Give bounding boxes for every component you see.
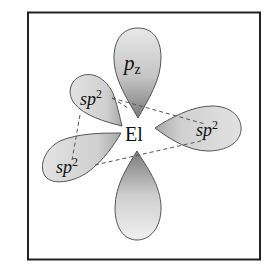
- orbital-diagram: pz sp2 sp2 sp2 El: [0, 0, 268, 272]
- center-atom-label: El: [125, 123, 143, 145]
